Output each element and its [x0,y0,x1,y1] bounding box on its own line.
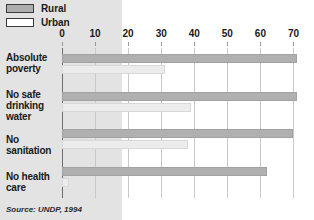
x-tick-label: 50 [222,28,233,39]
bar-urban [62,178,69,187]
bar-rural [62,129,293,138]
legend-label-urban: Urban [41,17,69,28]
bar-urban [62,103,191,112]
x-tick-mark [194,42,195,46]
bar-group [62,48,310,86]
bar-group [62,161,310,199]
legend-item-rural: Rural [6,2,118,15]
x-tick-label: 40 [189,28,200,39]
x-tick-mark [95,42,96,46]
chart-legend: Rural Urban [6,2,118,30]
x-tick-label: 10 [90,28,101,39]
x-axis: 010203040506070 [0,28,314,48]
x-tick-label: 20 [123,28,134,39]
category-label: No sanitation [6,134,62,156]
x-tick-mark [260,42,261,46]
category-label: Absolute poverty [6,52,62,74]
x-tick-label: 0 [59,28,65,39]
bar-rural [62,54,297,63]
x-tick-mark [62,42,63,46]
category-label: No safe drinking water [6,89,62,122]
x-tick-label: 30 [156,28,167,39]
bar-urban [62,65,165,74]
x-tick-label: 60 [255,28,266,39]
plot-area [62,48,310,198]
x-tick-mark [161,42,162,46]
bar-chart: Rural Urban 010203040506070 Absolute pov… [0,0,314,220]
urban-swatch-icon [6,18,34,27]
x-tick-mark [128,42,129,46]
x-tick-mark [293,42,294,46]
source-note: Source: UNDP, 1994 [6,205,82,214]
x-tick-label: 70 [288,28,299,39]
bar-rural [62,167,267,176]
legend-label-rural: Rural [41,3,66,14]
bar-group [62,123,310,161]
bar-rural [62,92,297,101]
bar-group [62,86,310,124]
bar-urban [62,140,188,149]
category-label: No health care [6,171,62,193]
rural-swatch-icon [6,4,34,13]
x-tick-mark [227,42,228,46]
